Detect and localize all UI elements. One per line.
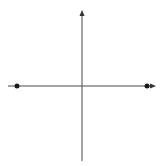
right-point <box>145 84 150 89</box>
left-point <box>15 84 20 89</box>
y-axis-arrow-icon <box>80 10 85 16</box>
coordinate-axes-diagram <box>0 0 164 166</box>
x-axis-arrow-icon <box>150 84 156 89</box>
